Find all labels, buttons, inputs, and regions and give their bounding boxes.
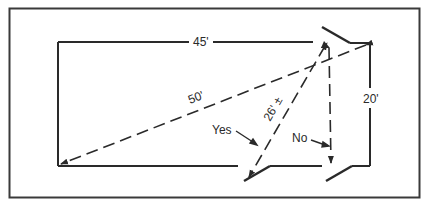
label-diagonal-26ft: 26' ± [260, 94, 285, 123]
arrowhead-top [321, 41, 330, 48]
label-diagonal-50ft: 50' [186, 88, 206, 107]
diagram-canvas: 45' 20' 50' 26' ± Yes No [0, 0, 425, 204]
diagonal-26ft [249, 46, 325, 177]
diagonal-50ft [61, 45, 366, 164]
room-layout-diagram: 45' 20' 50' 26' ± Yes No [0, 0, 425, 204]
outer-frame [10, 9, 420, 198]
measurement-lines [61, 43, 366, 177]
label-no: No [292, 131, 308, 145]
label-yes: Yes [212, 123, 232, 137]
label-height-20ft: 20' [363, 92, 379, 106]
label-width-45ft: 45' [193, 35, 209, 49]
callout-arrows [236, 131, 329, 147]
